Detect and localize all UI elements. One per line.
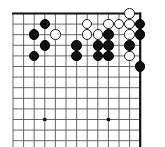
black-stone (29, 29, 40, 40)
white-stone (82, 29, 93, 40)
white-stone (50, 29, 61, 40)
black-stone (135, 61, 146, 72)
black-stone (71, 40, 82, 51)
white-stone (93, 29, 104, 40)
white-stone (124, 19, 135, 30)
black-stone (135, 29, 146, 40)
black-stone (93, 51, 104, 62)
black-stone (103, 40, 114, 51)
black-stone (103, 51, 114, 62)
white-stone (124, 51, 135, 62)
black-stone (71, 51, 82, 62)
black-stone (93, 40, 104, 51)
black-stone (103, 29, 114, 40)
black-stone (40, 19, 51, 30)
black-stone (40, 40, 51, 51)
white-stone (82, 19, 93, 30)
white-stone (124, 8, 135, 19)
black-stone (29, 51, 40, 62)
white-stone (124, 29, 135, 40)
go-board-figure: Go board diagram Partial go board showin… (0, 0, 165, 147)
stone-layer (0, 0, 165, 147)
white-stone (103, 19, 114, 30)
black-stone (135, 19, 146, 30)
white-stone (114, 19, 125, 30)
black-stone (124, 40, 135, 51)
